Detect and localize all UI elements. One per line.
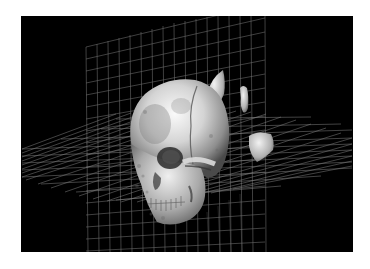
skull xyxy=(130,79,229,224)
scene xyxy=(21,16,353,252)
bone-fragment-3 xyxy=(249,132,274,162)
bone-fragment-2 xyxy=(240,86,248,113)
render-viewport xyxy=(21,16,353,252)
